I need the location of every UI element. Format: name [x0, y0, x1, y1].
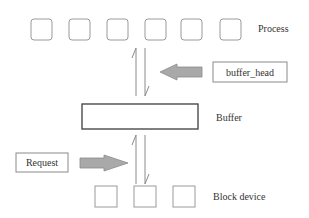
- process-box-5: [181, 19, 202, 40]
- process-label: Process: [258, 23, 289, 34]
- buffer-diagram: Process buffer_head Buffer Request Block…: [0, 0, 309, 218]
- buffer-rect: [82, 104, 198, 129]
- block-device-box-1: [95, 186, 117, 207]
- block-device-box-3: [173, 186, 195, 207]
- up-arrow-barb: [132, 48, 136, 58]
- buffer-device-arrows: [132, 135, 149, 184]
- process-box-1: [31, 19, 52, 40]
- process-box-2: [69, 19, 90, 40]
- buffer-label: Buffer: [216, 112, 243, 123]
- up-arrow-barb-lower: [132, 135, 136, 145]
- process-box-6: [220, 19, 241, 40]
- request-arrow-icon: [80, 155, 128, 171]
- block-device-label: Block device: [213, 191, 266, 202]
- request-label: Request: [26, 157, 58, 168]
- process-buffer-arrows: [132, 48, 149, 96]
- process-box-4: [145, 19, 166, 40]
- buffer-head-arrow-icon: [160, 64, 202, 80]
- buffer-head-label: buffer_head: [226, 67, 274, 78]
- down-arrow-barb: [145, 86, 149, 96]
- block-device-boxes: [95, 186, 195, 207]
- block-device-box-2: [134, 186, 156, 207]
- down-arrow-barb-lower: [145, 174, 149, 184]
- process-box-3: [107, 19, 128, 40]
- process-boxes: [31, 19, 241, 40]
